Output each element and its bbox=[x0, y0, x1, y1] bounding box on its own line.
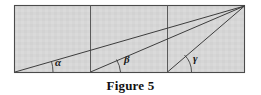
figure-caption: Figure 5 bbox=[0, 78, 261, 94]
figure-container: α β γ Figure 5 bbox=[0, 0, 261, 95]
angle-gamma-label: γ bbox=[193, 53, 198, 64]
angle-alpha-label: α bbox=[55, 57, 61, 68]
angle-beta-label: β bbox=[124, 54, 130, 65]
